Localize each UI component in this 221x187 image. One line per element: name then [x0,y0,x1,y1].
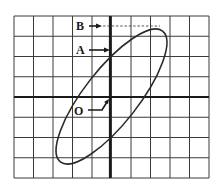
label-a: A [76,43,85,57]
arrow-o-shaft [88,102,107,110]
label-o: O [74,104,83,118]
arrow-b-head [96,24,102,29]
arrow-o-head [104,99,109,104]
oscilloscope-diagram: B A O [0,0,221,187]
label-b: B [76,19,84,33]
